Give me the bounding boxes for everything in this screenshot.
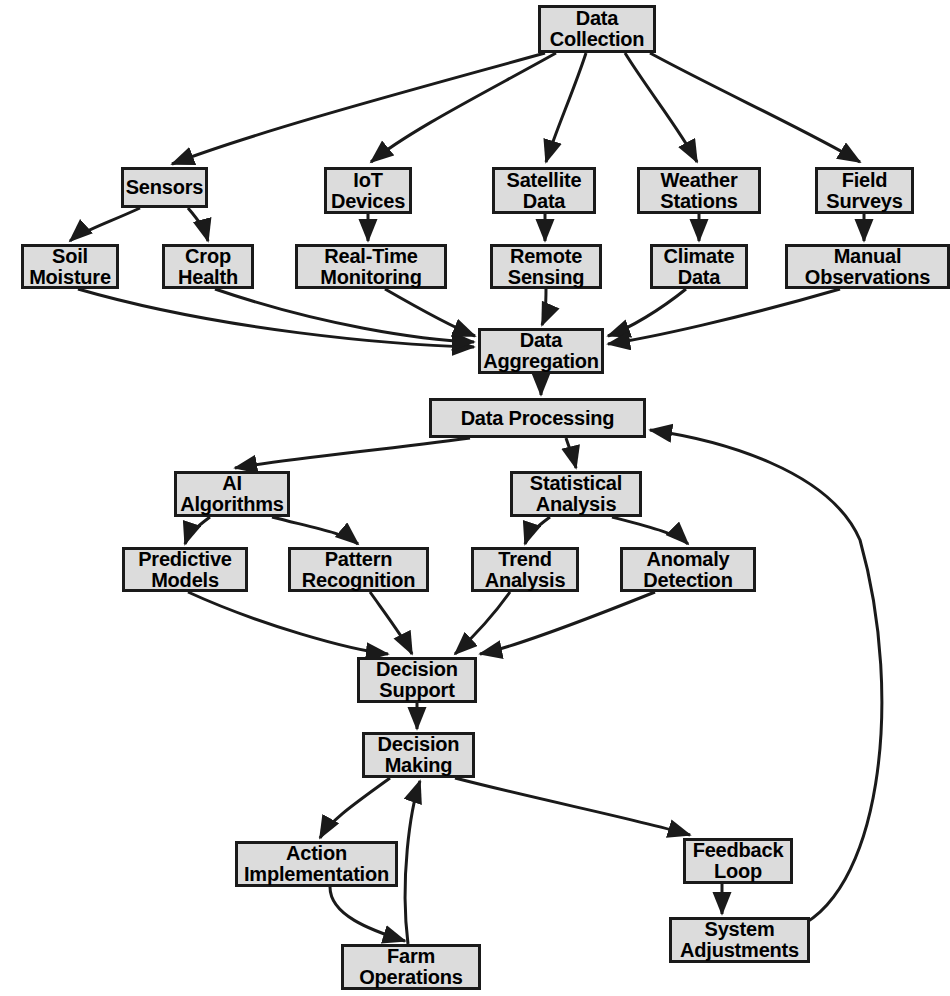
flow-edge [370,592,412,654]
flowchart-canvas: Data CollectionSensorsIoT DevicesSatelli… [0,0,950,996]
flow-edge [185,517,210,544]
node-field_surveys[interactable]: Field Surveys [815,167,914,214]
flow-edge [371,53,556,162]
node-remote_sensing[interactable]: Remote Sensing [490,244,602,289]
node-soil_moisture[interactable]: Soil Moisture [21,244,119,289]
node-data_collection[interactable]: Data Collection [538,5,656,53]
node-anomaly_detection[interactable]: Anomaly Detection [620,547,756,592]
node-data_processing[interactable]: Data Processing [429,398,646,438]
flow-edge [172,53,545,164]
node-sensors[interactable]: Sensors [121,167,208,208]
flow-edge [480,592,655,654]
node-climate_data[interactable]: Climate Data [650,244,748,289]
node-iot_devices[interactable]: IoT Devices [324,167,412,214]
node-decision_support[interactable]: Decision Support [357,657,477,703]
flow-edge [625,53,697,162]
node-decision_making[interactable]: Decision Making [362,732,475,778]
flow-edge [650,53,860,162]
flow-edge [546,53,586,162]
flow-edge [608,289,686,336]
flow-edge [188,592,388,654]
node-satellite_data[interactable]: Satellite Data [492,167,596,214]
flow-edge [612,517,688,544]
flow-edge [525,517,550,544]
flow-edge [330,887,405,941]
node-action_implementation[interactable]: Action Implementation [235,841,398,887]
edge-layer [0,0,950,996]
flow-edge [272,517,358,544]
flow-edge [188,208,208,241]
flow-edge [70,208,140,241]
flow-edge [455,778,690,835]
node-data_aggregation[interactable]: Data Aggregation [478,328,604,374]
node-pattern_recognition[interactable]: Pattern Recognition [288,547,429,592]
node-feedback_loop[interactable]: Feedback Loop [683,838,793,884]
node-statistical_analysis[interactable]: Statistical Analysis [510,471,642,517]
node-farm_operations[interactable]: Farm Operations [341,944,481,990]
flow-edge [542,289,546,325]
flow-edge [385,289,475,336]
flow-edge [235,438,470,468]
flow-edge [405,781,420,944]
node-manual_observations[interactable]: Manual Observations [785,244,950,289]
node-crop_health[interactable]: Crop Health [162,244,254,289]
flow-edge [78,289,474,347]
node-real_time_monitoring[interactable]: Real-Time Monitoring [295,244,447,289]
node-predictive_models[interactable]: Predictive Models [122,547,248,592]
node-system_adjustments[interactable]: System Adjustments [669,917,810,963]
node-weather_stations[interactable]: Weather Stations [637,167,761,214]
flow-edge [215,289,474,342]
node-trend_analysis[interactable]: Trend Analysis [471,547,579,592]
flow-edge [320,778,390,838]
node-ai_algorithms[interactable]: AI Algorithms [174,471,290,517]
flow-edge [566,438,576,468]
flow-edge [608,289,840,344]
flow-edge [455,592,510,654]
